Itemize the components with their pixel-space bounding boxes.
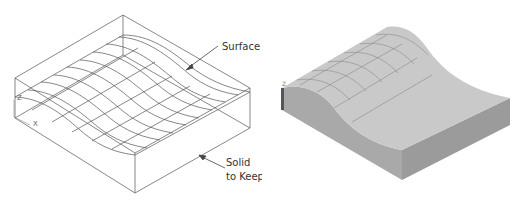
solid-label-line2: to Keep bbox=[226, 171, 262, 182]
solid-leader bbox=[202, 157, 225, 168]
arrowhead-icon bbox=[186, 64, 193, 70]
shaded-panel: Z bbox=[262, 0, 517, 200]
shaded-solid-diagram: Z bbox=[262, 0, 517, 200]
surface-label: Surface bbox=[222, 41, 260, 52]
leader-lines bbox=[186, 46, 225, 168]
solid-label-line1: Solid bbox=[226, 157, 250, 168]
z-axis-label: Z bbox=[282, 80, 286, 87]
ucs-icon bbox=[14, 100, 30, 125]
x-axis-label: X bbox=[33, 120, 38, 128]
wireframe-diagram: Surface Solid to Keep Z X bbox=[0, 0, 262, 200]
wireframe-panel: Surface Solid to Keep Z X bbox=[0, 0, 262, 200]
bounding-box bbox=[15, 15, 250, 193]
arrowhead-icon bbox=[199, 155, 206, 160]
surface-mesh bbox=[15, 35, 250, 155]
left-edge-shadow bbox=[281, 88, 284, 110]
z-axis-label: Z bbox=[17, 94, 22, 102]
